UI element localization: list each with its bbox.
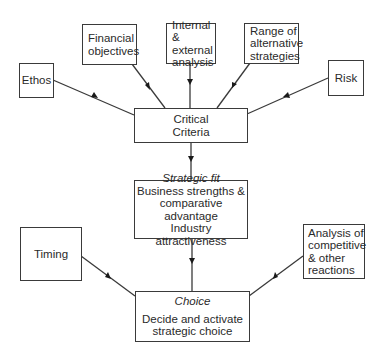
range-label-line3: strategies <box>250 50 300 63</box>
financial-label-line1: Financial <box>88 32 134 45</box>
competitive-label-line3: & other <box>308 252 345 265</box>
timing-label: Timing <box>34 248 68 261</box>
financial-label-line2: objectives <box>88 45 139 58</box>
strategic-fit-line1: Business strengths & <box>137 185 245 198</box>
competitive-reactions-box: Analysis of competitive & other reaction… <box>303 224 365 279</box>
internal-external-analysis-box: Internal & external analysis <box>166 23 216 64</box>
critical-label-line1: Critical <box>173 113 208 126</box>
edge-ethos-critical <box>53 80 134 115</box>
risk-box: Risk <box>328 60 364 96</box>
choice-heading: Choice <box>175 295 211 308</box>
arrowhead-icon <box>283 92 290 98</box>
competitive-label-line2: competitive <box>308 239 366 252</box>
strategic-fit-box: Strategic fit Business strengths & compa… <box>134 180 248 239</box>
range-of-strategies-box: Range of alternative strategies <box>244 23 299 64</box>
risk-label: Risk <box>335 72 357 85</box>
analysis-label-line2: external <box>172 44 213 57</box>
arrowhead-icon <box>187 79 193 85</box>
competitive-label-line1: Analysis of <box>308 227 364 240</box>
strategic-fit-heading: Strategic fit <box>162 172 220 185</box>
ethos-label: Ethos <box>22 74 51 87</box>
arrowhead-icon <box>232 82 237 88</box>
range-label-line1: Range of <box>250 25 297 38</box>
arrowhead-icon <box>189 258 195 264</box>
choice-line2: strategic choice <box>153 325 233 338</box>
arrowhead-icon <box>105 272 111 279</box>
choice-line1: Decide and activate <box>142 313 243 326</box>
analysis-label-line3: analysis <box>172 56 214 69</box>
range-label-line2: alternative <box>250 37 303 50</box>
industry-attractiveness-label: Industry attractiveness <box>135 222 247 247</box>
critical-criteria-box: Critical Criteria <box>134 108 248 143</box>
financial-objectives-box: Financial objectives <box>82 24 137 65</box>
analysis-label-line1: Internal & <box>172 19 215 44</box>
ethos-box: Ethos <box>19 63 54 98</box>
strategic-fit-line2: comparative advantage <box>135 197 247 222</box>
timing-box: Timing <box>20 227 82 281</box>
arrowhead-icon <box>188 156 194 162</box>
choice-box: Choice Decide and activate strategic cho… <box>135 291 250 342</box>
competitive-label-line4: reactions <box>308 264 355 277</box>
arrowhead-icon <box>91 92 98 98</box>
critical-label-line2: Criteria <box>172 126 209 139</box>
